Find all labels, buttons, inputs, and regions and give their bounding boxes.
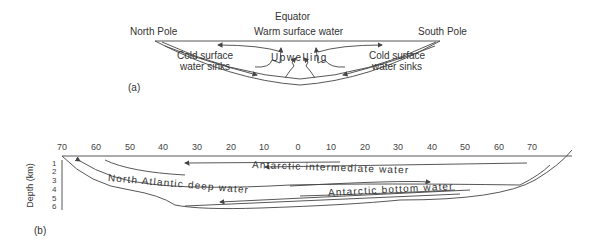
right-sink-label: Cold surface water sinks	[362, 50, 432, 72]
warm-surface-water-label: Warm surface water	[254, 26, 343, 37]
lat-tick: 50	[460, 142, 470, 152]
equator-label: Equator	[275, 11, 310, 22]
lat-tick: 10	[259, 142, 269, 152]
left-sink-label: Cold surface water sinks	[170, 50, 240, 72]
upwelling-label: Upwelling	[271, 52, 328, 63]
depth-tick: 3	[52, 176, 56, 185]
depth-tick: 6	[52, 202, 56, 211]
lat-tick: 10	[326, 142, 336, 152]
lat-tick: 20	[360, 142, 370, 152]
lat-tick: 40	[427, 142, 437, 152]
south-pole-label: South Pole	[418, 26, 467, 37]
depth-axis-label: Depth (km)	[25, 163, 36, 208]
lat-tick: 70	[527, 142, 537, 152]
panel-a-tag: (a)	[128, 82, 140, 93]
north-pole-label: North Pole	[130, 26, 177, 37]
lat-tick: 60	[494, 142, 504, 152]
lat-tick: 0	[295, 142, 300, 152]
lat-tick: 50	[125, 142, 135, 152]
lat-tick: 40	[158, 142, 168, 152]
lat-tick: 70	[57, 142, 67, 152]
lat-tick: 30	[393, 142, 403, 152]
panel-b-tag: (b)	[34, 225, 46, 236]
lat-tick: 30	[192, 142, 202, 152]
depth-tick: 4	[52, 185, 56, 194]
lat-tick: 60	[91, 142, 101, 152]
lat-tick: 20	[226, 142, 236, 152]
depth-tick: 2	[52, 167, 56, 176]
